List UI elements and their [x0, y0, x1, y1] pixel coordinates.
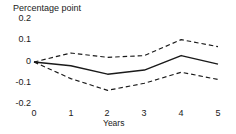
impulse-response-chart: Percentage point 0.2 0.1 0 -0.1 -0.2 0 1…	[0, 0, 236, 134]
plot-area	[0, 0, 236, 134]
point-estimate-line	[34, 56, 218, 75]
upper-confidence-band-line	[34, 40, 218, 62]
lower-confidence-band-line	[34, 62, 218, 90]
